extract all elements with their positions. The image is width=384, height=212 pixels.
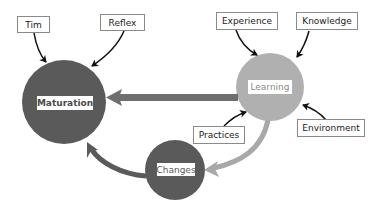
tim-arrow [34,33,46,62]
experience-arrow [236,30,257,55]
environment-box: Environment [297,119,365,137]
tim-box: Tim [17,16,50,33]
reflex-box: Reflex [100,14,145,31]
learning-label: Learning [248,80,292,94]
changes-label: Changes [157,163,195,176]
knowledge-arrow [297,31,309,57]
practices-box: Practices [193,126,245,144]
reflex-arrow [92,31,124,66]
maturation-label: Maturation [37,96,93,110]
learning-to-maturation-arrow [106,89,238,106]
knowledge-box: Knowledge [296,12,358,30]
experience-box: Experience [216,12,278,30]
changes-to-maturation-arrow [87,142,146,176]
practices-arrow [224,112,246,126]
environment-arrow [303,105,326,120]
